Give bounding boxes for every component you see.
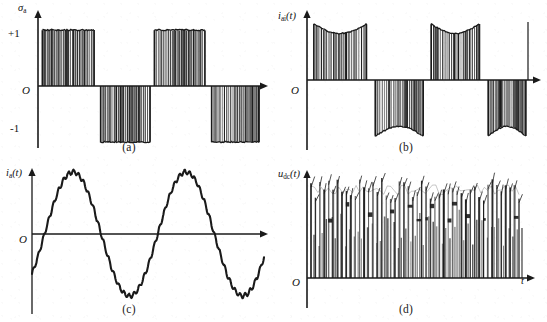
panel-c-plot — [0, 158, 274, 322]
panel-b-plot — [273, 0, 547, 161]
panel-b: iai(t) O (b) — [273, 0, 547, 161]
figure-canvas: σa +1 -1 O (a) iai(t) O (b) ia(t) O (c) … — [0, 0, 547, 322]
panel-c: ia(t) O (c) — [0, 158, 274, 322]
panel-d: udc(t) O t (d) — [273, 158, 547, 322]
panel-d-plot — [273, 158, 547, 322]
panel-a: σa +1 -1 O (a) — [0, 0, 274, 161]
panel-a-plot — [0, 0, 274, 161]
panel-b-caption: (b) — [269, 141, 543, 153]
panel-c-caption: (c) — [0, 303, 266, 315]
panel-d-caption: (d) — [269, 303, 543, 315]
panel-a-caption: (a) — [0, 141, 266, 153]
